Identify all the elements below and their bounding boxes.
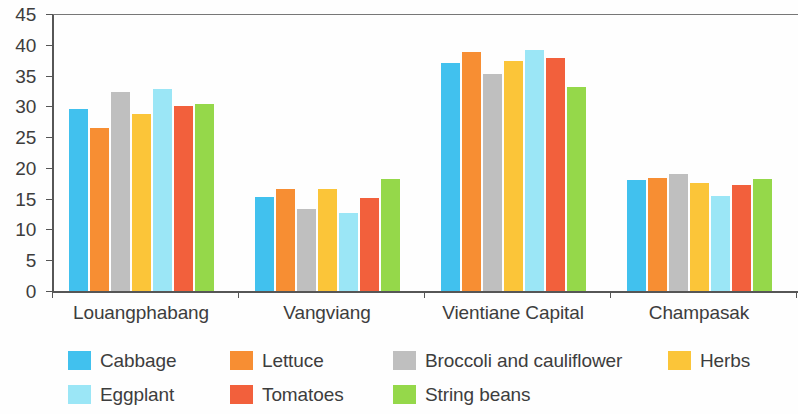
x-axis-label-3: Champasak: [649, 302, 749, 325]
bar: [648, 178, 667, 291]
legend-label: Broccoli and cauliflower: [425, 351, 622, 370]
legend-item-cabbage[interactable]: Cabbage: [68, 351, 176, 370]
legend-swatch-icon: [68, 385, 91, 404]
bar: [195, 104, 214, 291]
bar: [732, 185, 751, 291]
bar: [153, 89, 172, 291]
legend-item-tomatoes[interactable]: Tomatoes: [230, 385, 344, 404]
x-tick-mark-1: [238, 291, 239, 298]
y-axis: 051015202530354045: [0, 0, 44, 300]
bar: [504, 61, 523, 291]
bar: [546, 58, 565, 291]
bar: [132, 114, 151, 291]
x-axis-label-1: Vangviang: [283, 302, 371, 325]
bar-group-0: [69, 14, 214, 291]
y-tick-mark-15: [46, 199, 53, 200]
legend-label: String beans: [425, 385, 530, 404]
legend-label: Cabbage: [100, 351, 176, 370]
bar: [381, 179, 400, 291]
bar: [690, 183, 709, 291]
y-tick-mark-35: [46, 76, 53, 77]
legend-item-herbs[interactable]: Herbs: [668, 351, 750, 370]
y-tick-mark-0: [46, 291, 53, 292]
y-tick-mark-25: [46, 137, 53, 138]
legend-label: Tomatoes: [262, 385, 344, 404]
x-axis-label-2: Vientiane Capital: [442, 302, 584, 325]
y-tick-label-10: 10: [15, 220, 36, 239]
legend-item-string-beans[interactable]: String beans: [393, 385, 530, 404]
bar: [174, 106, 193, 291]
legend-label: Eggplant: [100, 385, 174, 404]
plot-area: 051015202530354045: [0, 0, 798, 300]
y-tick-label-25: 25: [15, 128, 36, 147]
bar: [753, 179, 772, 291]
legend-swatch-icon: [668, 351, 691, 370]
bar-group-3: [627, 14, 772, 291]
y-tick-mark-5: [46, 260, 53, 261]
x-tick-mark-3: [610, 291, 611, 298]
y-tick-mark-45: [46, 14, 53, 15]
bar-group-1: [255, 14, 400, 291]
bar: [483, 74, 502, 291]
bar-group-2: [441, 14, 586, 291]
legend-label: Lettuce: [262, 351, 324, 370]
legend-item-eggplant[interactable]: Eggplant: [68, 385, 174, 404]
legend-item-lettuce[interactable]: Lettuce: [230, 351, 324, 370]
y-tick-mark-20: [46, 168, 53, 169]
legend-swatch-icon: [230, 385, 253, 404]
bar: [669, 174, 688, 291]
y-tick-label-30: 30: [15, 97, 36, 116]
y-tick-label-45: 45: [15, 5, 36, 24]
bars-container: [54, 14, 798, 291]
x-tick-mark-2: [424, 291, 425, 298]
y-tick-label-40: 40: [15, 35, 36, 54]
x-tick-mark-0: [52, 291, 53, 298]
legend-swatch-icon: [393, 385, 416, 404]
bar: [276, 189, 295, 291]
x-axis-line: [52, 291, 798, 293]
x-axis-labels: LouangphabangVangviangVientiane CapitalC…: [0, 302, 798, 336]
x-axis-label-0: Louangphabang: [73, 302, 209, 325]
bar: [90, 128, 109, 291]
bar: [339, 213, 358, 291]
y-tick-mark-10: [46, 229, 53, 230]
grouped-bar-chart: 051015202530354045 LouangphabangVangvian…: [0, 0, 798, 414]
bar: [318, 189, 337, 291]
bar: [525, 50, 544, 291]
legend-swatch-icon: [68, 351, 91, 370]
y-tick-label-20: 20: [15, 158, 36, 177]
bar: [111, 92, 130, 291]
x-tick-mark-end: [796, 291, 797, 298]
bar: [297, 209, 316, 291]
y-tick-label-15: 15: [15, 189, 36, 208]
bar: [360, 198, 379, 291]
bar: [255, 197, 274, 291]
y-tick-label-5: 5: [26, 251, 36, 270]
bar: [711, 196, 730, 291]
bar: [441, 63, 460, 291]
bar: [627, 180, 646, 291]
y-tick-label-0: 0: [26, 282, 36, 301]
y-tick-mark-40: [46, 45, 53, 46]
y-tick-mark-30: [46, 106, 53, 107]
legend-label: Herbs: [700, 351, 750, 370]
legend-swatch-icon: [230, 351, 253, 370]
y-tick-label-35: 35: [15, 66, 36, 85]
legend-item-broccoli-and-cauliflower[interactable]: Broccoli and cauliflower: [393, 351, 622, 370]
bar: [462, 52, 481, 291]
legend-swatch-icon: [393, 351, 416, 370]
bar: [69, 109, 88, 291]
bar: [567, 87, 586, 291]
chart-legend: CabbageLettuceBroccoli and cauliflowerHe…: [0, 343, 798, 413]
